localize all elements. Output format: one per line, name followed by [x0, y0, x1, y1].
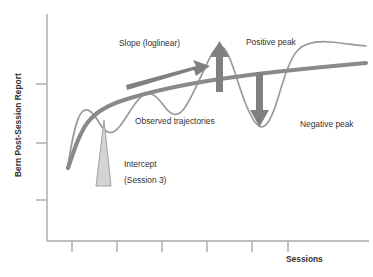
x-tick-marks [72, 241, 288, 252]
positive-peak-label: Positive peak [246, 37, 297, 47]
negative-peak-label: Negative peak [300, 119, 354, 129]
intercept-triangle-icon [96, 120, 111, 186]
trajectory-diagram: Slope (loglinear) Observed trajectories … [0, 0, 373, 277]
y-tick-marks [36, 84, 47, 200]
intercept-label-line2: (Session 3) [124, 175, 167, 185]
intercept-marker-group [96, 120, 111, 186]
slope-label: Slope (loglinear) [119, 38, 180, 48]
positive-peak-arrow-group [210, 41, 229, 92]
positive-peak-arrow-icon [210, 41, 229, 92]
x-axis-title: Sessions [286, 254, 323, 264]
y-axis-title: Bern Post-Session Report [13, 73, 23, 177]
figure-container: Slope (loglinear) Observed trajectories … [0, 0, 373, 277]
intercept-label-line1: Intercept [124, 159, 157, 169]
observed-trajectories-label: Observed trajectories [135, 116, 215, 126]
axes-group [36, 14, 369, 252]
